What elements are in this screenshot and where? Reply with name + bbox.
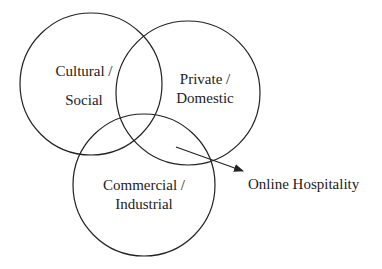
commercial-industrial-label: Commercial / Industrial [94, 178, 194, 212]
venn-diagram: Cultural / Social Private / Domestic Com… [0, 0, 382, 269]
venn-shapes [0, 0, 382, 269]
private-domestic-label: Private / Domestic [165, 72, 245, 106]
cultural-social-label: Cultural / Social [44, 64, 124, 108]
online-hospitality-label: Online Hospitality [248, 177, 359, 192]
callout-arrow [176, 147, 243, 171]
